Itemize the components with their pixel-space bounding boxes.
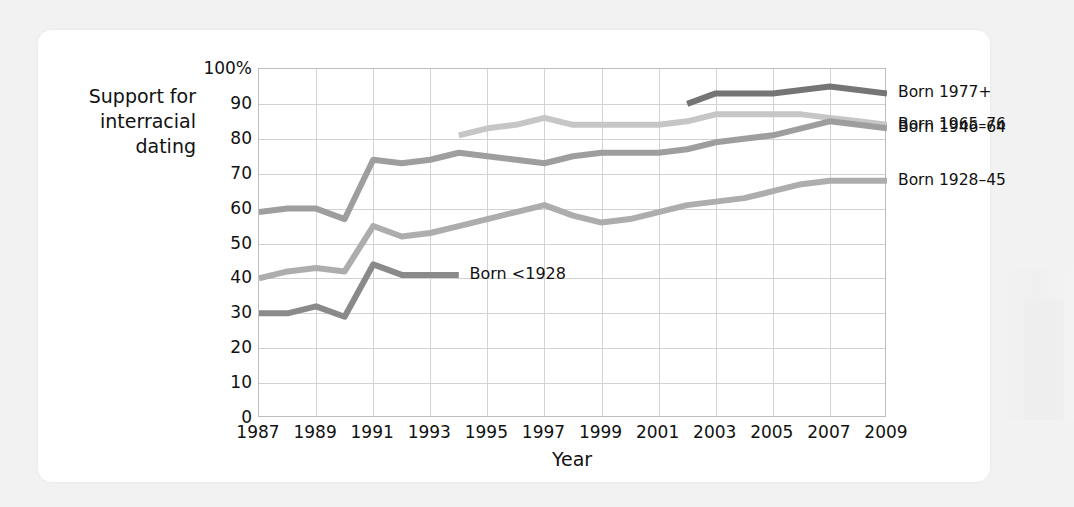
y-axis-tick-label: 20 [178, 337, 252, 357]
line-chart: Support for interracial dating 010203040… [0, 0, 1074, 507]
x-axis-tick-label: 1997 [511, 422, 575, 442]
x-axis-tick-label: 1995 [454, 422, 518, 442]
y-axis-tick-label: 80 [178, 128, 252, 148]
x-axis-tick-label: 2009 [854, 422, 918, 442]
y-axis-tick-label: 40 [178, 267, 252, 287]
series-layer [259, 69, 887, 418]
y-axis-title-line-2: interracial [60, 109, 196, 134]
x-axis-tick-label: 2007 [797, 422, 861, 442]
y-axis-title-line-3: dating [60, 134, 196, 159]
x-axis-tick-label: 1991 [340, 422, 404, 442]
legend-item[interactable]: Born 1977+ [898, 83, 991, 101]
x-axis-tick-label: 2005 [740, 422, 804, 442]
y-axis-tick-label: 50 [178, 233, 252, 253]
x-axis-tick-label: 1993 [397, 422, 461, 442]
page-root: Support for interracial dating 010203040… [0, 0, 1074, 507]
x-axis-title: Year [258, 448, 886, 470]
series-line [259, 121, 887, 219]
y-axis-tick-label: 30 [178, 302, 252, 322]
y-axis-tick-label: 60 [178, 198, 252, 218]
y-axis-tick-label: 10 [178, 372, 252, 392]
series-line [687, 86, 887, 103]
plot-area [258, 68, 886, 417]
y-axis-title: Support for interracial dating [60, 84, 196, 159]
x-axis-tick-label: 2003 [683, 422, 747, 442]
x-axis-tick-label: 1989 [283, 422, 347, 442]
legend-item[interactable]: Born 1928–45 [898, 171, 1006, 189]
y-axis-tick-label: 100% [178, 58, 252, 78]
legend-item[interactable]: Born 1946–64 [898, 118, 1006, 136]
x-axis-tick-label: 1987 [226, 422, 290, 442]
x-axis-tick-label: 1999 [569, 422, 633, 442]
y-axis-tick-label: 90 [178, 93, 252, 113]
x-axis-tick-label: 2001 [626, 422, 690, 442]
y-axis-title-line-1: Support for [60, 84, 196, 109]
y-axis-tick-label: 70 [178, 163, 252, 183]
inline-series-label: Born <1928 [470, 264, 566, 283]
